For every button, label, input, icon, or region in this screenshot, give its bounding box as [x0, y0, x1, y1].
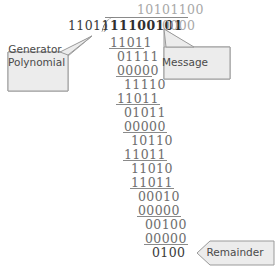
remainder-callout-shape [183, 239, 275, 267]
division-operator: ) [103, 19, 108, 32]
generator-polynomial-callout-shape [6, 34, 98, 94]
division-row: 01011 [124, 106, 166, 119]
division-row: 11010 [131, 162, 173, 175]
remainder-value: 0100 [152, 246, 185, 259]
division-row: 00010 [138, 190, 180, 203]
division-row: 00100 [145, 218, 187, 231]
message-callout-shape [140, 27, 232, 83]
quotient: 10101100 [137, 3, 204, 16]
crc-long-division-diagram: 10101100 11011 ) 11100101 0000 11011 011… [0, 0, 275, 270]
division-row: 10110 [131, 134, 173, 147]
